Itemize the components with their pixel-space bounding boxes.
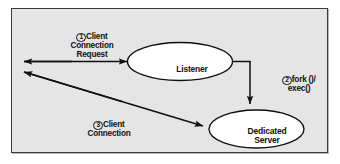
diagram-figure: Listener Dedicated Server 1 Client Conne… (0, 0, 340, 164)
node-listener-label: Listener (152, 65, 232, 74)
diagram-frame: Listener Dedicated Server 1 Client Conne… (11, 8, 328, 153)
edge-fork-exec-label: 2 fork ()/ exec() (268, 67, 330, 94)
node-dedicated-server-label: Dedicated Server (227, 127, 307, 145)
edge-fork-exec-text: fork ()/ exec() (288, 75, 316, 93)
edge-fork-exec-line (233, 62, 250, 105)
node-listener-shape (128, 43, 233, 81)
edge-client-request-label: 1 Client Connection Request (54, 24, 130, 60)
edge-client-connection-label: 3 Client Connection (70, 112, 148, 139)
edge-client-connection-left-head (24, 72, 122, 102)
